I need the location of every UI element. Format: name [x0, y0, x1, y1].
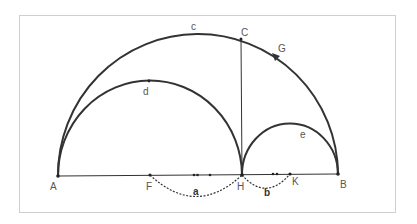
point-tick-2 [196, 174, 199, 177]
arc-c [58, 34, 338, 176]
label-c: c [191, 21, 196, 32]
point-tick-4 [272, 173, 275, 176]
point-tick-5 [276, 173, 279, 176]
label-d: d [143, 86, 149, 97]
label-F: F [146, 181, 152, 192]
label-a: a [193, 186, 199, 197]
point-A[interactable] [56, 174, 60, 178]
label-A: A [50, 181, 57, 192]
label-G: G [278, 43, 286, 54]
label-e: e [300, 129, 306, 140]
segment-HC [241, 39, 242, 175]
point-F[interactable] [148, 173, 151, 176]
point-H[interactable] [240, 173, 244, 177]
point-tick-3 [209, 174, 212, 177]
label-K: K [292, 176, 299, 187]
arc-d [58, 81, 242, 176]
label-H: H [237, 181, 244, 192]
point-d-top [148, 80, 151, 83]
arc-e [242, 123, 338, 175]
label-b: b [264, 187, 270, 198]
label-C: C [241, 27, 248, 38]
geometry-figure: A F H K B C G c d e a b [0, 0, 417, 224]
point-B[interactable] [336, 172, 340, 176]
point-tick-1 [193, 174, 196, 177]
label-B: B [340, 179, 347, 190]
